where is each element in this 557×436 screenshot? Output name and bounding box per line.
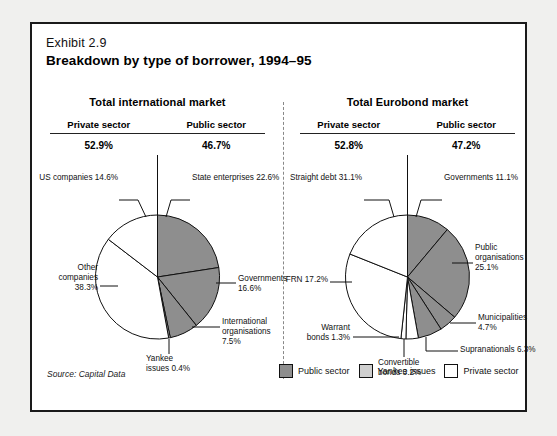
panel-eurobond-market: Total Eurobond market Private sector Pub… xyxy=(290,96,525,387)
pie-area-left: US companies 14.6% State enterprises 22.… xyxy=(40,155,275,387)
sector-values-right: 52.8% 47.2% xyxy=(290,140,525,151)
header-rule-right xyxy=(300,133,515,134)
value-private-left: 52.9% xyxy=(40,140,158,151)
label-governments-right: Governments 11.1% xyxy=(444,173,540,183)
legend-swatch-private-sector xyxy=(444,364,458,378)
value-public-right: 47.2% xyxy=(408,140,526,151)
legend-item-public-sector: Public sector xyxy=(279,364,350,378)
label-other-companies: Other companies 38.3% xyxy=(26,263,98,293)
legend-label-yankee-issues: Yankee issues xyxy=(378,366,436,376)
header-rule-left xyxy=(50,133,265,134)
legend-label-private-sector: Private sector xyxy=(463,366,518,376)
pie-area-right: Straight debt 31.1% Governments 11.1% Pu… xyxy=(290,155,525,387)
sector-headers-right: Private sector Public sector xyxy=(290,119,525,130)
legend: Public sector Yankee issues Private sect… xyxy=(279,364,518,378)
source-note: Source: Capital Data xyxy=(47,369,125,379)
label-yankee-issues: Yankee issues 0.4% xyxy=(146,354,224,374)
sector-values-left: 52.9% 46.7% xyxy=(40,140,275,151)
label-frn: FRN 17.2% xyxy=(258,275,328,285)
header-private-left: Private sector xyxy=(40,119,158,130)
exhibit-title: Breakdown by type of borrower, 1994–95 xyxy=(46,53,312,68)
value-public-left: 46.7% xyxy=(158,140,276,151)
legend-swatch-yankee-issues xyxy=(359,364,373,378)
header-public-left: Public sector xyxy=(158,119,276,130)
panel-title-right: Total Eurobond market xyxy=(290,96,525,108)
exhibit-frame: Exhibit 2.9 Breakdown by type of borrowe… xyxy=(30,22,527,412)
header-public-right: Public sector xyxy=(408,119,526,130)
legend-label-public-sector: Public sector xyxy=(298,366,350,376)
sector-headers-left: Private sector Public sector xyxy=(40,119,275,130)
panel-title-left: Total international market xyxy=(40,96,275,108)
panel-international-market: Total international market Private secto… xyxy=(40,96,275,387)
label-warrant-bonds: Warrant bonds 1.3% xyxy=(278,323,350,343)
label-us-companies: US companies 14.6% xyxy=(28,173,118,183)
label-straight-debt: Straight debt 31.1% xyxy=(266,173,362,183)
label-public-organisations: Public organisations 25.1% xyxy=(475,243,547,273)
legend-item-private-sector: Private sector xyxy=(444,364,518,378)
exhibit-number: Exhibit 2.9 xyxy=(46,36,312,50)
value-private-right: 52.8% xyxy=(290,140,408,151)
legend-swatch-public-sector xyxy=(279,364,293,378)
header-private-right: Private sector xyxy=(290,119,408,130)
label-municipalities: Municipalities 4.7% xyxy=(478,313,554,333)
legend-item-yankee-issues: Yankee issues xyxy=(359,364,436,378)
exhibit-heading: Exhibit 2.9 Breakdown by type of borrowe… xyxy=(46,36,312,68)
label-supranationals: Supranationals 6.3% xyxy=(460,345,557,355)
